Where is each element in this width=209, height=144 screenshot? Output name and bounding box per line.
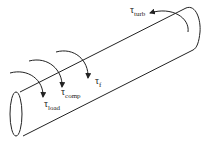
torque-comp-subscript: comp [65, 92, 81, 100]
shaft-top-edge [20, 8, 186, 92]
torque-turb-subscript: turb [134, 10, 145, 18]
torque-turb-label: τturb [130, 5, 145, 18]
torque-turb-arrow [150, 11, 188, 32]
torque-f-label: τf [95, 76, 101, 89]
shaft-diagram [0, 0, 209, 144]
shaft-left-end [10, 92, 22, 136]
torque-load-arrow [10, 72, 43, 97]
torque-load-subscript: load [48, 104, 60, 112]
torque-load-label: τload [44, 99, 60, 112]
torque-f-arrow [56, 51, 88, 78]
torque-comp-label: τcomp [61, 87, 81, 100]
torque-f-subscript: f [99, 81, 101, 89]
